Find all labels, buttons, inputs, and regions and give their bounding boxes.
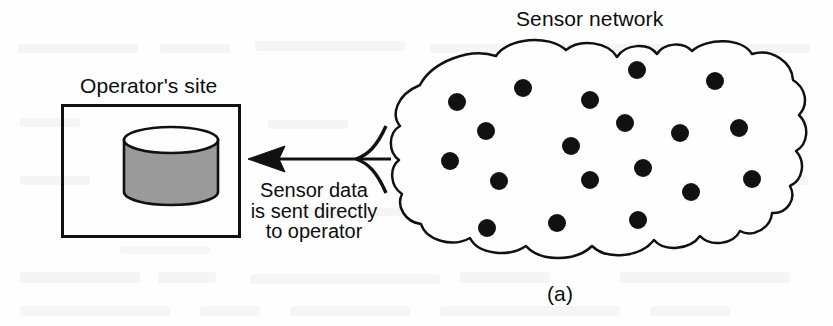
figure-caption: (a) — [535, 283, 585, 304]
arrowhead — [248, 146, 285, 172]
sensor-dot — [448, 93, 466, 111]
annotation-line-3: to operator — [247, 221, 381, 242]
sensor-dot — [581, 171, 599, 189]
sensor-dot — [730, 119, 748, 137]
sensor-dot — [629, 211, 647, 229]
sensor-dot — [562, 137, 580, 155]
database-cylinder-icon — [124, 127, 218, 205]
sensor-dot — [628, 61, 646, 79]
annotation-line-1: Sensor data — [247, 180, 381, 201]
sensor-dot — [682, 183, 700, 201]
figure-canvas: Operator's site Sensor network — [0, 0, 833, 326]
sensor-dot — [478, 219, 496, 237]
diagram-vector-layer — [0, 0, 833, 326]
sensor-dot — [743, 170, 761, 188]
sensor-dot — [548, 214, 566, 232]
sensor-dot — [706, 72, 724, 90]
sensor-dot — [581, 91, 599, 109]
sensor-network-cloud — [391, 40, 806, 258]
sensor-dot — [634, 159, 652, 177]
sensor-dot — [616, 114, 634, 132]
sensor-dot — [441, 152, 459, 170]
sensor-dot — [490, 172, 508, 190]
sensor-dot — [671, 124, 689, 142]
sensor-dot — [477, 122, 495, 140]
sensor-dot — [514, 79, 532, 97]
sensor-data-annotation: Sensor data is sent directly to operator — [247, 180, 381, 242]
annotation-line-2: is sent directly — [247, 201, 381, 222]
